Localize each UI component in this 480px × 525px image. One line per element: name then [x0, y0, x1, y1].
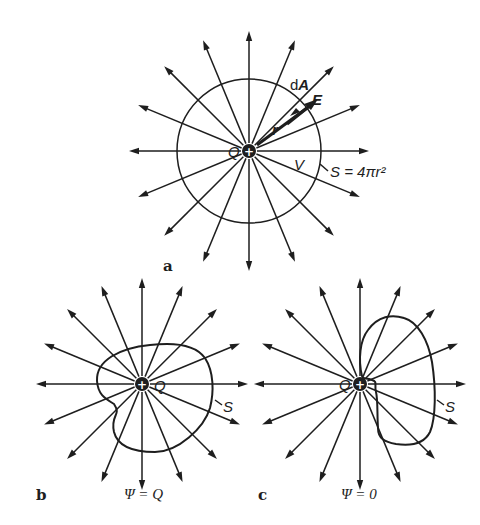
charge-label-c: Q — [339, 376, 351, 393]
panel-a-field-line — [205, 158, 246, 256]
panel-a-arrowhead — [203, 40, 210, 50]
charge-sign-a: + — [244, 145, 254, 159]
panel-a-field-line — [205, 46, 246, 144]
panel-a-arrowhead — [138, 190, 148, 197]
closed-surface-c — [360, 316, 435, 444]
charge-sign-b: + — [137, 378, 147, 392]
volume-label: V — [294, 156, 306, 173]
panel-b-arrowhead — [101, 286, 108, 296]
panel-b-arrowhead — [229, 343, 239, 350]
panel-c-arrowhead — [319, 471, 326, 481]
flux-caption-c: Ψ = 0 — [341, 486, 377, 502]
panel-c-arrowhead — [357, 278, 363, 288]
panel-a-arrowhead — [138, 105, 148, 112]
panel-a-field-line — [144, 154, 242, 195]
charge-label-a: Q — [228, 143, 240, 160]
panel-b-arrowhead — [36, 381, 46, 387]
surface-label-b: S — [223, 398, 233, 415]
panel-c-arrowhead — [262, 343, 272, 350]
field-label: E — [312, 91, 323, 108]
panel-c-arrowhead — [254, 381, 264, 387]
panel-b-arrowhead — [176, 471, 183, 481]
closed-surface-b — [97, 344, 213, 452]
panel-c-arrowhead — [447, 343, 457, 350]
panel-b-arrowhead — [139, 278, 145, 288]
panel-b-arrowhead — [176, 286, 183, 296]
charge-sign-c: + — [355, 378, 365, 392]
panel-b-arrowhead — [229, 418, 239, 425]
panel-a-arrowhead — [288, 40, 295, 50]
panel-a-arrowhead — [288, 251, 295, 261]
surface-leader-a — [320, 164, 328, 171]
panel-c-arrowhead — [262, 418, 272, 425]
panel-b-arrowhead — [238, 381, 248, 387]
panel-a-arrowhead — [129, 148, 139, 154]
surface-label-a: S = 4πr² — [330, 163, 386, 180]
panel-b-arrowhead — [44, 343, 54, 350]
panel-c: + Q S c Ψ = 0 — [254, 278, 466, 504]
panel-b-arrowhead — [101, 471, 108, 481]
area-element-label: dA — [290, 76, 309, 93]
panel-a-arrowhead — [246, 261, 252, 271]
panel-c-arrowhead — [456, 381, 466, 387]
panel-label-c: c — [258, 486, 267, 504]
surface-leader-c — [437, 400, 444, 405]
charge-label-b: Q — [154, 377, 166, 394]
panel-a-field-line — [252, 158, 293, 256]
panel-a-arrowhead — [246, 31, 252, 41]
panel-a-arrowhead — [349, 105, 359, 112]
panel-label-a: a — [163, 257, 173, 275]
panel-a-arrowhead — [359, 148, 369, 154]
panel-label-b: b — [36, 486, 47, 504]
surface-leader-b — [215, 400, 222, 405]
panel-a-arrowhead — [349, 190, 359, 197]
panel-c-arrowhead — [319, 286, 326, 296]
panel-b-arrowhead — [44, 418, 54, 425]
flux-caption-b: Ψ = Q — [124, 486, 163, 502]
panel-c-arrowhead — [394, 471, 401, 481]
panel-b: + Q S b Ψ = Q — [36, 278, 248, 504]
gauss-law-figure: + Q dA E r V S = 4πr² a + Q S b Ψ = Q + … — [0, 0, 480, 525]
surface-label-c: S — [445, 398, 455, 415]
panel-c-arrowhead — [394, 286, 401, 296]
panel-a-arrowhead — [203, 251, 210, 261]
panel-c-arrowhead — [447, 418, 457, 425]
panel-a-field-line — [144, 107, 242, 148]
panel-a: + Q dA E r V S = 4πr² a — [129, 31, 386, 275]
